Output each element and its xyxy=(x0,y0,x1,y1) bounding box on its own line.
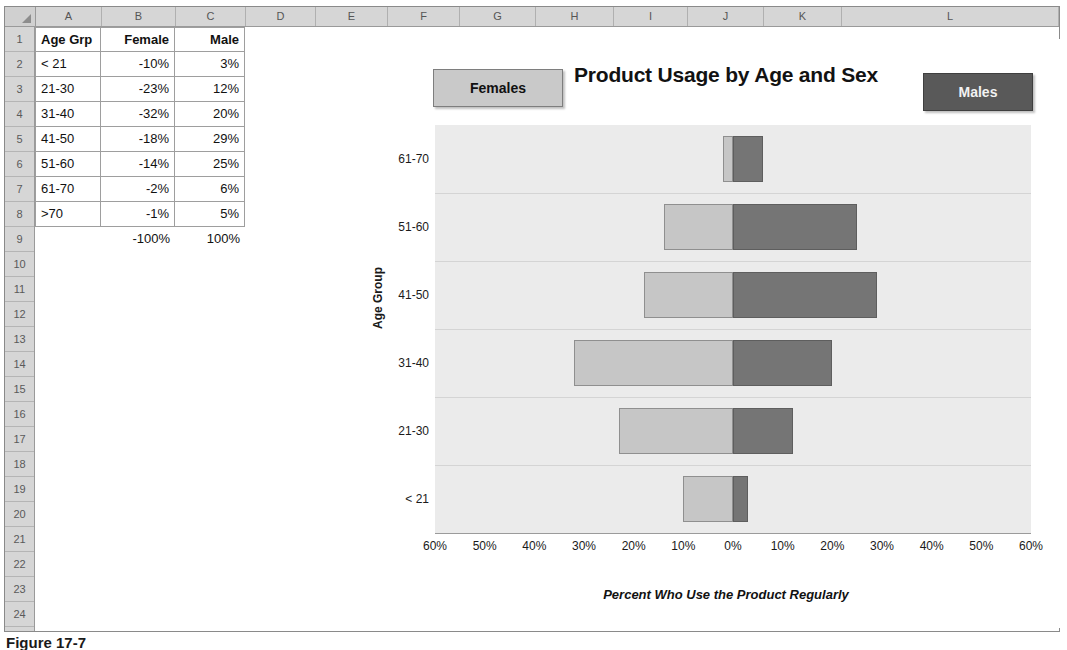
row-header-14[interactable]: 14 xyxy=(5,352,34,377)
column-header-i[interactable]: I xyxy=(614,7,688,26)
cell-b7[interactable]: -2% xyxy=(101,177,175,202)
row-header-16[interactable]: 16 xyxy=(5,402,34,427)
gridline xyxy=(435,397,1031,398)
cell-b5[interactable]: -18% xyxy=(101,127,175,152)
row-header-1[interactable]: 1 xyxy=(5,27,34,52)
column-header-l[interactable]: L xyxy=(842,7,1059,26)
cell-a9[interactable] xyxy=(35,227,101,252)
cell-c3[interactable]: 12% xyxy=(175,77,245,102)
bar-female-21-30[interactable] xyxy=(619,408,733,454)
cell-c1[interactable]: Male xyxy=(175,27,245,52)
cell-c8[interactable]: 5% xyxy=(175,202,245,227)
row-header-4[interactable]: 4 xyxy=(5,102,34,127)
row-header-9[interactable]: 9 xyxy=(5,227,34,252)
cell-a5[interactable]: 41-50 xyxy=(35,127,101,152)
column-header-c[interactable]: C xyxy=(176,7,246,26)
column-header-g[interactable]: G xyxy=(460,7,536,26)
cell-a3[interactable]: 21-30 xyxy=(35,77,101,102)
bar-female-under-21[interactable] xyxy=(683,476,733,522)
x-tick-pos30: 30% xyxy=(870,539,894,553)
cell-b6[interactable]: -14% xyxy=(101,152,175,177)
column-header-a[interactable]: A xyxy=(36,7,102,26)
cell-a2[interactable]: < 21 xyxy=(35,52,101,77)
y-tick-under-21: < 21 xyxy=(405,492,429,506)
x-axis-title: Percent Who Use the Product Regularly xyxy=(391,587,1061,602)
figure-caption: Figure 17-7 xyxy=(6,634,86,650)
column-header-k[interactable]: K xyxy=(764,7,842,26)
x-tick-neg30: 30% xyxy=(572,539,596,553)
row-header-5[interactable]: 5 xyxy=(5,127,34,152)
row-header-6[interactable]: 6 xyxy=(5,152,34,177)
column-header-f[interactable]: F xyxy=(388,7,460,26)
bar-male-under-21[interactable] xyxy=(733,476,748,522)
plot-area xyxy=(435,125,1031,534)
column-header-b[interactable]: B xyxy=(102,7,176,26)
y-tick-21-30: 21-30 xyxy=(398,424,429,438)
bar-male-21-30[interactable] xyxy=(733,408,793,454)
cell-a6[interactable]: 51-60 xyxy=(35,152,101,177)
cell-b2[interactable]: -10% xyxy=(101,52,175,77)
bar-female-41-50[interactable] xyxy=(644,272,733,318)
spreadsheet-window: A B C D E F G H I J K L 1 2 3 4 5 6 7 8 … xyxy=(4,6,1060,632)
cell-a4[interactable]: 31-40 xyxy=(35,102,101,127)
row-header-17[interactable]: 17 xyxy=(5,427,34,452)
row-header-24[interactable]: 24 xyxy=(5,602,34,627)
bar-male-61-70[interactable] xyxy=(733,136,763,182)
column-header-row: A B C D E F G H I J K L xyxy=(5,7,1059,27)
cell-a1[interactable]: Age Grp xyxy=(35,27,101,52)
x-tick-zero: 0% xyxy=(724,539,741,553)
row-header-13[interactable]: 13 xyxy=(5,327,34,352)
cell-b1[interactable]: Female xyxy=(101,27,175,52)
x-tick-neg20: 20% xyxy=(622,539,646,553)
select-all-corner[interactable] xyxy=(5,7,36,26)
cell-b9-total-female[interactable]: -100% xyxy=(101,227,175,252)
bar-male-51-60[interactable] xyxy=(733,204,857,250)
row-header-20[interactable]: 20 xyxy=(5,502,34,527)
row-header-12[interactable]: 12 xyxy=(5,302,34,327)
column-header-d[interactable]: D xyxy=(246,7,316,26)
cell-c7[interactable]: 6% xyxy=(175,177,245,202)
bar-male-41-50[interactable] xyxy=(733,272,877,318)
bar-female-51-60[interactable] xyxy=(664,204,734,250)
cell-c5[interactable]: 29% xyxy=(175,127,245,152)
x-tick-neg40: 40% xyxy=(522,539,546,553)
row-header-11[interactable]: 11 xyxy=(5,277,34,302)
gridline xyxy=(435,465,1031,466)
column-header-e[interactable]: E xyxy=(316,7,388,26)
cell-b3[interactable]: -23% xyxy=(101,77,175,102)
x-tick-neg50: 50% xyxy=(473,539,497,553)
row-header-18[interactable]: 18 xyxy=(5,452,34,477)
column-header-j[interactable]: J xyxy=(688,7,764,26)
row-header-8[interactable]: 8 xyxy=(5,202,34,227)
row-header-10[interactable]: 10 xyxy=(5,252,34,277)
gridline xyxy=(435,193,1031,194)
cell-c6[interactable]: 25% xyxy=(175,152,245,177)
legend-females[interactable]: Females xyxy=(433,69,563,107)
cell-b8[interactable]: -1% xyxy=(101,202,175,227)
chart-object[interactable]: Product Usage by Age and Sex Age Group 6… xyxy=(391,39,1061,628)
row-header-2[interactable]: 2 xyxy=(5,52,34,77)
legend-males[interactable]: Males xyxy=(923,73,1033,111)
gridline xyxy=(435,329,1031,330)
bar-male-31-40[interactable] xyxy=(733,340,832,386)
column-header-h[interactable]: H xyxy=(536,7,614,26)
row-header-23[interactable]: 23 xyxy=(5,577,34,602)
y-tick-41-50: 41-50 xyxy=(398,288,429,302)
bar-female-61-70[interactable] xyxy=(723,136,733,182)
cell-c2[interactable]: 3% xyxy=(175,52,245,77)
cell-a7[interactable]: 61-70 xyxy=(35,177,101,202)
row-header-3[interactable]: 3 xyxy=(5,77,34,102)
cell-b4[interactable]: -32% xyxy=(101,102,175,127)
row-header-21[interactable]: 21 xyxy=(5,527,34,552)
row-header-19[interactable]: 19 xyxy=(5,477,34,502)
x-tick-pos50: 50% xyxy=(969,539,993,553)
cell-a8[interactable]: >70 xyxy=(35,202,101,227)
x-tick-neg10: 10% xyxy=(671,539,695,553)
row-header-15[interactable]: 15 xyxy=(5,377,34,402)
x-tick-pos20: 20% xyxy=(820,539,844,553)
bar-female-31-40[interactable] xyxy=(574,340,733,386)
cell-c9-total-male[interactable]: 100% xyxy=(175,227,245,252)
cell-c4[interactable]: 20% xyxy=(175,102,245,127)
row-header-7[interactable]: 7 xyxy=(5,177,34,202)
row-header-22[interactable]: 22 xyxy=(5,552,34,577)
